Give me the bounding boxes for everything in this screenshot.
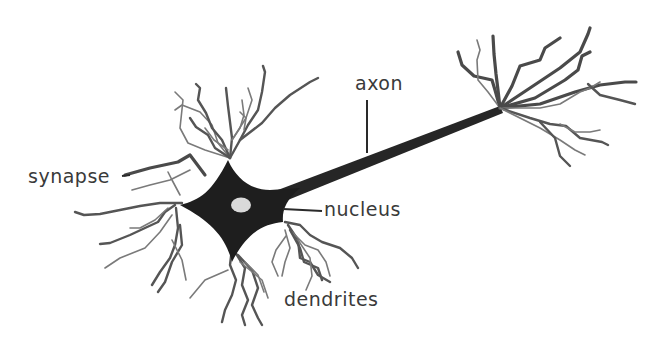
axon-terminal <box>458 28 636 166</box>
axon <box>262 106 503 208</box>
dendrites-right-bottom <box>272 222 358 290</box>
label-nucleus: nucleus <box>324 198 401 220</box>
nucleus <box>231 198 251 213</box>
dendrites-top <box>175 66 318 158</box>
label-dendrites: dendrites <box>284 288 378 310</box>
dendrites-bottom <box>190 248 268 325</box>
label-synapse: synapse <box>28 165 110 187</box>
label-axon: axon <box>355 72 403 94</box>
nucleus-leader <box>283 209 322 211</box>
neuron-diagram: synapse axon nucleus dendrites <box>0 0 662 360</box>
synapse-leader <box>122 175 130 176</box>
